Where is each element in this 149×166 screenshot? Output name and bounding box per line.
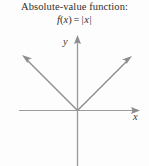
absolute-value-function-figure: Absolute-value function: f(x)=|x| y x [0, 0, 149, 166]
right-branch-arrowhead-icon [122, 56, 132, 64]
y-axis-label: y [63, 36, 68, 47]
abs-value-right-branch [78, 61, 127, 110]
abs-value-left-branch [27, 60, 77, 110]
x-axis-label: x [133, 111, 138, 122]
coordinate-plot [0, 0, 149, 166]
left-branch-arrowhead-icon [22, 55, 32, 63]
